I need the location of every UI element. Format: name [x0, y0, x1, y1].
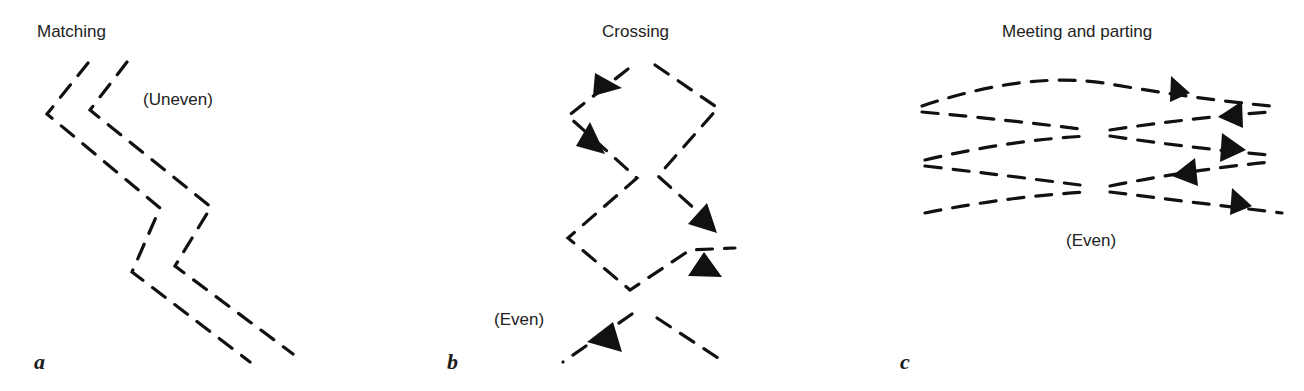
arrowhead-icon [1230, 188, 1252, 215]
arrowhead-icon [1220, 133, 1246, 162]
arrowhead-icon [1170, 76, 1190, 102]
diagram-canvas [0, 0, 1304, 391]
arrowhead-icon [1172, 158, 1198, 186]
meeting-row-2 [922, 112, 1270, 130]
panel-a-letter: a [34, 349, 45, 375]
meeting-row-1 [922, 80, 1270, 106]
panel-c-annotation: (Even) [1066, 231, 1116, 251]
crossing-path-right [655, 65, 718, 228]
panel-b-paths [563, 65, 735, 362]
meeting-row-3 [925, 136, 1270, 160]
panel-c-paths [922, 76, 1282, 215]
arrowhead-icon [688, 252, 722, 277]
meeting-row-4 [925, 162, 1270, 186]
panel-c-letter: c [900, 349, 910, 375]
meeting-row-5 [925, 192, 1282, 213]
panel-c-title: Meeting and parting [1002, 22, 1152, 42]
panel-b-title: Crossing [602, 22, 669, 42]
panel-a-title: Matching [37, 22, 106, 42]
panel-b-letter: b [447, 349, 458, 375]
arrowhead-icon [587, 322, 622, 352]
panel-a-annotation: (Uneven) [143, 90, 213, 110]
arrowhead-icon [1218, 101, 1243, 128]
arrowhead-icon [688, 203, 717, 233]
panel-b-annotation: (Even) [494, 310, 544, 330]
crossing-path-bottom-right [657, 318, 718, 358]
